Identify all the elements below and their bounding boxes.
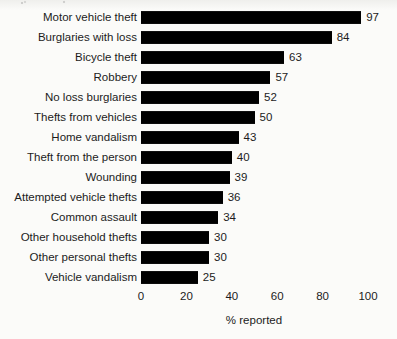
- bar-value-label: 43: [244, 129, 257, 146]
- category-label: Attempted vehicle thefts: [0, 189, 137, 206]
- bar-value-label: 97: [366, 9, 379, 26]
- category-label: Thefts from vehicles: [0, 109, 137, 126]
- bar-row: Thefts from vehicles50: [0, 111, 397, 124]
- bar-value-label: 30: [214, 229, 227, 246]
- category-label: Motor vehicle theft: [0, 9, 137, 26]
- x-tick-label: 20: [166, 288, 206, 304]
- bar-value-label: 52: [264, 89, 277, 106]
- bar-row: Common assault34: [0, 211, 397, 224]
- x-axis-tick-labels: 020406080100: [0, 288, 397, 304]
- bar-row: Bicycle theft63: [0, 51, 397, 64]
- bar: [141, 251, 209, 264]
- category-label: Wounding: [0, 169, 137, 186]
- bar: [141, 231, 209, 244]
- bar: [141, 11, 361, 24]
- category-label: Other household thefts: [0, 229, 137, 246]
- bar: [141, 191, 223, 204]
- bar-row: Theft from the person40: [0, 151, 397, 164]
- bar-row: Wounding39: [0, 171, 397, 184]
- bar-value-label: 39: [235, 169, 248, 186]
- category-label: Vehicle vandalism: [0, 269, 137, 286]
- bar-row: Vehicle vandalism25: [0, 271, 397, 284]
- bar-value-label: 57: [275, 69, 288, 86]
- bar-value-label: 34: [223, 209, 236, 226]
- x-axis-title: % reported: [154, 312, 354, 328]
- bar-value-label: 63: [289, 49, 302, 66]
- bar: [141, 111, 255, 124]
- x-tick-label: 60: [257, 288, 297, 304]
- bar: [141, 131, 239, 144]
- bar-value-label: 36: [228, 189, 241, 206]
- bar-value-label: 84: [337, 29, 350, 46]
- bar: [141, 211, 218, 224]
- bar: [141, 171, 230, 184]
- bar-row: No loss burglaries52: [0, 91, 397, 104]
- category-label: Bicycle theft: [0, 49, 137, 66]
- bar-row: Other household thefts30: [0, 231, 397, 244]
- category-label: Theft from the person: [0, 149, 137, 166]
- bar: [141, 51, 284, 64]
- x-tick-label: 100: [348, 288, 388, 304]
- bar-row: Other personal thefts30: [0, 251, 397, 264]
- x-tick-label: 40: [212, 288, 252, 304]
- x-tick-label: 80: [303, 288, 343, 304]
- category-label: No loss burglaries: [0, 89, 137, 106]
- bar-value-label: 30: [214, 249, 227, 266]
- horizontal-bar-chart: Motor vehicle theft97Burglaries with los…: [0, 0, 397, 339]
- category-label: Common assault: [0, 209, 137, 226]
- bar: [141, 31, 332, 44]
- bar-row: Motor vehicle theft97: [0, 11, 397, 24]
- x-tick-label: 0: [121, 288, 161, 304]
- bar-value-label: 50: [260, 109, 273, 126]
- bar: [141, 271, 198, 284]
- bar-row: Robbery57: [0, 71, 397, 84]
- bar-row: Attempted vehicle thefts36: [0, 191, 397, 204]
- bar-row: Burglaries with loss84: [0, 31, 397, 44]
- bar: [141, 91, 259, 104]
- category-label: Robbery: [0, 69, 137, 86]
- category-label: Home vandalism: [0, 129, 137, 146]
- category-label: Burglaries with loss: [0, 29, 137, 46]
- bar-value-label: 40: [237, 149, 250, 166]
- bar: [141, 151, 232, 164]
- bar-row: Home vandalism43: [0, 131, 397, 144]
- category-label: Other personal thefts: [0, 249, 137, 266]
- bar-value-label: 25: [203, 269, 216, 286]
- bar: [141, 71, 270, 84]
